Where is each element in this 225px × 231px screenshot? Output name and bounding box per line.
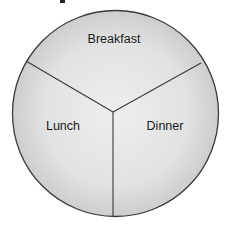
- pie-chart: Breakfast Lunch Dinner: [0, 0, 225, 231]
- slice-label-lunch: Lunch: [46, 119, 80, 133]
- slice-label-dinner: Dinner: [147, 119, 184, 133]
- slice-label-breakfast: Breakfast: [88, 32, 141, 46]
